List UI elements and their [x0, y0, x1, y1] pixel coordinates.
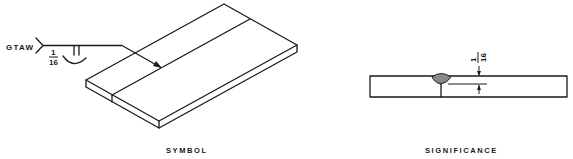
joint-line — [112, 19, 250, 95]
significance-fraction: 1 16 — [469, 52, 488, 63]
fraction-denominator: 16 — [49, 58, 58, 67]
tail-icon — [36, 38, 43, 53]
isometric-plates — [86, 4, 297, 128]
symbol-caption: SYMBOL — [166, 146, 208, 155]
symbol-panel: GTAW 1 16 — [6, 4, 297, 155]
fraction-denominator: 16 — [479, 53, 488, 62]
dimension-fraction: 1 16 — [49, 48, 58, 67]
square-groove-icon — [74, 46, 79, 55]
weld-symbol-diagram: GTAW 1 16 — [0, 0, 573, 159]
melt-through-contour-icon — [63, 56, 86, 64]
arrow-head-icon — [153, 61, 162, 68]
fraction-numerator: 1 — [469, 57, 478, 62]
significance-caption: SIGNIFICANCE — [425, 146, 498, 155]
fraction-numerator: 1 — [51, 48, 56, 57]
process-label: GTAW — [6, 43, 34, 52]
weld-bead-icon — [432, 74, 451, 85]
significance-panel: 1 16 SIGNIFICANCE — [370, 52, 567, 155]
dimension-arrows — [477, 66, 481, 94]
plate-cross-section — [370, 76, 567, 97]
